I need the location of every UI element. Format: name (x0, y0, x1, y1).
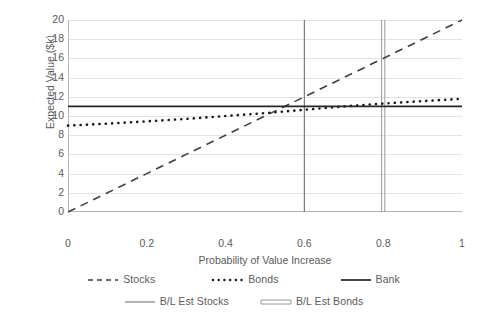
dashed-line-icon (86, 274, 120, 285)
data-series (68, 20, 462, 212)
solid-line-icon (339, 274, 373, 285)
y-tick-label: 4 (24, 168, 64, 178)
y-tick-label: 0 (24, 206, 64, 216)
legend-label: Bank (376, 273, 400, 285)
legend-row-2: B/L Est Stocks B/L Est Bonds (0, 290, 486, 312)
series-canvas (68, 20, 462, 212)
legend-item-bl-est-bonds[interactable]: B/L Est Bonds (259, 295, 363, 307)
y-tick-label: 8 (24, 129, 64, 139)
plot-area: 00.20.40.60.81 Probability of Value Incr… (68, 20, 462, 212)
y-tick-label: 2 (24, 187, 64, 197)
legend-label: B/L Est Stocks (160, 295, 229, 307)
y-tick-label: 18 (24, 33, 64, 43)
y-tick-label: 6 (24, 148, 64, 158)
x-tick-label: 0.6 (284, 237, 324, 249)
legend-row-1: Stocks Bonds Bank (0, 268, 486, 290)
dotted-line-icon (211, 274, 245, 285)
x-tick-label: 0.4 (206, 237, 246, 249)
y-tick-label: 14 (24, 72, 64, 82)
double-line-icon (259, 296, 293, 307)
legend-label: Bonds (248, 273, 278, 285)
x-tick-label: 1 (442, 237, 482, 249)
y-tick-label: 12 (24, 91, 64, 101)
y-axis: Expected Value ($k) 02468101214161820 (18, 0, 64, 232)
x-axis-title: Probability of Value Increase (68, 254, 462, 266)
x-tick-label: 0 (48, 237, 88, 249)
y-tick-label: 16 (24, 52, 64, 62)
chart-legend: Stocks Bonds Bank B/L Est Stocks (0, 268, 486, 312)
x-tick-label: 0.2 (127, 237, 167, 249)
legend-label: Stocks (123, 273, 155, 285)
vertical-markers (304, 20, 384, 212)
legend-item-bank[interactable]: Bank (339, 273, 400, 285)
legend-item-stocks[interactable]: Stocks (86, 273, 155, 285)
legend-label: B/L Est Bonds (296, 295, 363, 307)
y-tick-label: 20 (24, 14, 64, 24)
legend-item-bl-est-stocks[interactable]: B/L Est Stocks (123, 295, 229, 307)
x-tick-label: 0.8 (363, 237, 403, 249)
series-line-bonds (68, 99, 462, 126)
legend-item-bonds[interactable]: Bonds (211, 273, 278, 285)
y-tick-label: 10 (24, 110, 64, 120)
series-line-stocks (68, 20, 462, 212)
expected-value-chart: Expected Value ($k) 02468101214161820 00… (0, 0, 486, 319)
thin-solid-line-icon (123, 296, 157, 307)
